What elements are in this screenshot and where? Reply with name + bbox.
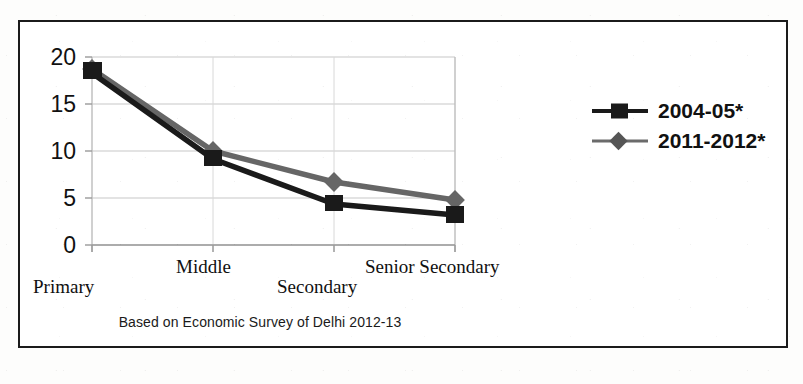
chart-legend: 2004-05* 2011-2012* xyxy=(592,96,782,156)
legend-item-2004-05[interactable]: 2004-05* xyxy=(592,96,782,126)
x-axis xyxy=(92,245,455,252)
series-line-2004-05 xyxy=(83,62,464,223)
chart-caption: Based on Economic Survey of Delhi 2012-1… xyxy=(0,314,520,330)
y-tick-label-20: 20 xyxy=(30,44,76,71)
legend-label-2011-2012: 2011-2012* xyxy=(658,129,765,153)
legend-marker-square-icon xyxy=(592,100,648,122)
x-label-middle: Middle xyxy=(176,256,231,278)
series-markers-2011-2012 xyxy=(82,59,465,210)
y-tick-label-15: 15 xyxy=(30,91,76,118)
legend-label-2004-05: 2004-05* xyxy=(658,99,743,123)
chart-plot-area: 20 15 10 5 0 Primary Middle Secondary Se… xyxy=(0,0,803,384)
series-markers-2004-05 xyxy=(83,62,464,223)
x-label-primary: Primary xyxy=(33,276,94,298)
y-tick-label-5: 5 xyxy=(30,185,76,212)
y-tick-label-0: 0 xyxy=(30,232,76,259)
x-label-senior-secondary: Senior Secondary xyxy=(365,256,500,278)
legend-item-2011-2012[interactable]: 2011-2012* xyxy=(592,126,782,156)
y-axis-ticks xyxy=(85,57,92,245)
legend-marker-diamond-icon xyxy=(592,130,648,152)
x-label-secondary: Secondary xyxy=(277,276,357,298)
gridlines xyxy=(92,57,455,245)
category-gridlines xyxy=(92,57,455,252)
y-tick-label-10: 10 xyxy=(30,138,76,165)
series-line-2011-2012 xyxy=(82,59,465,210)
